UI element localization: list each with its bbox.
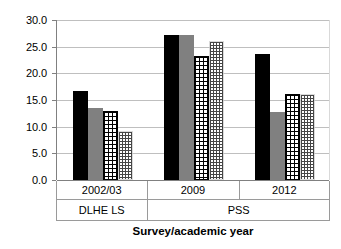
y-axis-tick-mark: [52, 20, 56, 21]
category-axis-survey: DLHE LSPSS: [56, 200, 330, 221]
category-label-year: 2009: [147, 181, 238, 199]
y-axis-tick-mark: [52, 47, 56, 48]
y-axis-tick-label: 5.0: [0, 148, 47, 159]
category-separator: [147, 181, 148, 199]
axis-edge: [329, 181, 330, 199]
y-axis-tick-mark: [52, 127, 56, 128]
bar: [255, 54, 270, 180]
axis-edge: [56, 200, 57, 220]
axis-edge: [329, 200, 330, 220]
y-axis-tick-label: 15.0: [0, 95, 47, 106]
bar: [88, 108, 103, 180]
category-separator: [239, 181, 240, 199]
bar: [118, 131, 133, 180]
bar: [285, 94, 300, 180]
y-axis-tick-label: 30.0: [0, 15, 47, 26]
category-label-year: 2002/03: [56, 181, 147, 199]
y-axis-tick-mark: [52, 100, 56, 101]
bar: [270, 112, 285, 180]
bar-chart: 2002/0320092012 DLHE LSPSS Survey/academ…: [0, 0, 341, 249]
bar: [300, 94, 315, 180]
y-axis-tick-mark: [52, 180, 56, 181]
bar: [103, 111, 118, 180]
bar: [73, 91, 88, 180]
y-axis-tick-mark: [52, 73, 56, 74]
category-separator: [147, 200, 148, 220]
bar: [194, 56, 209, 180]
plot-area: [56, 20, 330, 180]
bar-group: [57, 20, 148, 180]
axis-edge: [56, 181, 57, 199]
category-axis-year: 2002/0320092012: [56, 181, 330, 200]
bar-group: [148, 20, 239, 180]
y-axis-tick-mark: [52, 153, 56, 154]
bar: [164, 35, 179, 180]
y-axis-tick-label: 25.0: [0, 42, 47, 53]
bar-group: [240, 20, 331, 180]
bar: [209, 41, 224, 180]
bar: [179, 35, 194, 180]
x-axis-title: Survey/academic year: [56, 225, 330, 238]
y-axis-tick-label: 0.0: [0, 175, 47, 186]
category-label-survey: DLHE LS: [56, 200, 147, 220]
category-label-year: 2012: [239, 181, 330, 199]
y-axis-tick-label: 10.0: [0, 122, 47, 133]
y-axis-tick-label: 20.0: [0, 68, 47, 79]
category-label-survey: PSS: [147, 200, 330, 220]
